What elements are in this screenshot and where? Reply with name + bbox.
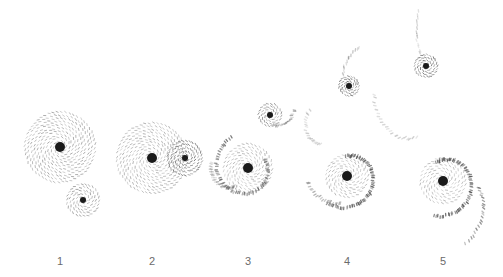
panel-label-4: 4 (337, 255, 357, 267)
galaxy-interaction-figure (0, 0, 503, 277)
panel-label-3: 3 (238, 255, 258, 267)
panel-label-5: 5 (433, 255, 453, 267)
panel-3 (209, 103, 296, 195)
panel-1 (24, 111, 100, 216)
panel-5 (373, 10, 485, 245)
panel-2 (116, 122, 202, 194)
panel-label-2: 2 (142, 255, 162, 267)
panel-4 (304, 47, 374, 210)
panel-label-1: 1 (50, 255, 70, 267)
